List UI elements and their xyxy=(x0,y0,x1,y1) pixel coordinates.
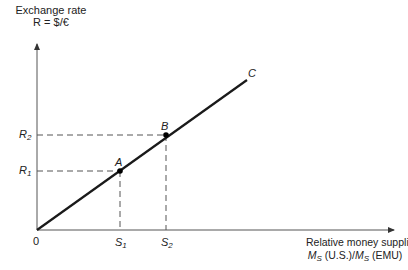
x-axis-title-line2: MS (U.S.)/MS (EMU) xyxy=(306,249,404,265)
tick-label-r2: R2 xyxy=(19,128,31,144)
money-supply-exchange-rate-line xyxy=(37,80,247,230)
point-b-label: B xyxy=(161,120,168,132)
point-c-label: C xyxy=(248,67,256,79)
x-axis-title-line1: Relative money supplies xyxy=(306,236,404,249)
point-a-marker xyxy=(117,168,123,174)
y-axis-title-line2: R = $/€ xyxy=(6,16,96,28)
y-axis-title-line1: Exchange rate xyxy=(6,4,96,16)
point-b-marker xyxy=(163,132,169,138)
tick-label-s1: S1 xyxy=(115,236,127,252)
diagram-canvas xyxy=(0,0,408,270)
y-axis-title: Exchange rate R = $/€ xyxy=(6,4,96,28)
tick-label-s2: S2 xyxy=(161,236,173,252)
x-axis-title: Relative money supplies MS (U.S.)/MS (EM… xyxy=(306,236,404,265)
tick-label-r1: R1 xyxy=(19,164,31,180)
point-a-label: A xyxy=(115,156,122,168)
origin-label: 0 xyxy=(33,235,39,247)
